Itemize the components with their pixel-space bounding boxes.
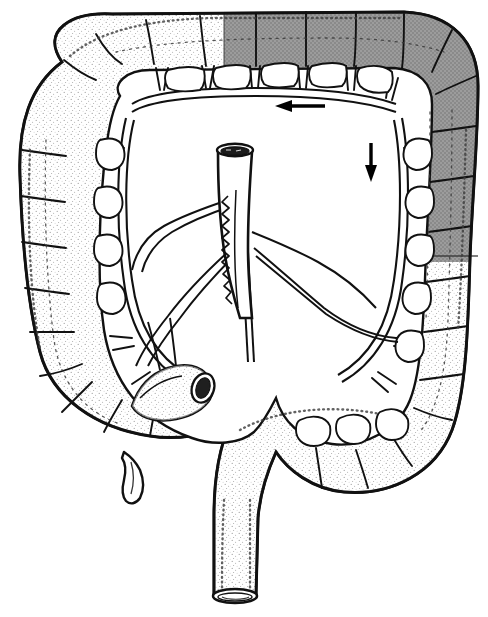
large-intestine-illustration: [0, 0, 488, 617]
anatomical-figure: Large Intestine (Colon) Anatomical Illus…: [0, 0, 488, 617]
artery-lumen-inner: [221, 147, 249, 155]
rectum-cut-end: [213, 589, 257, 603]
